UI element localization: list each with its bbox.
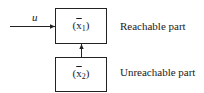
unreachable-state: (x2) — [55, 68, 107, 80]
unreachable-state-sub: 2 — [82, 72, 86, 81]
input-label: u — [32, 12, 38, 23]
reachable-state-sub: 1 — [82, 24, 86, 33]
unreachable-state-var: x — [76, 67, 82, 79]
reachable-state-var: x — [76, 19, 82, 31]
unreachable-label: Unreachable part — [120, 67, 195, 78]
reachable-state: (x1) — [55, 20, 107, 32]
reachable-label: Reachable part — [120, 21, 186, 32]
